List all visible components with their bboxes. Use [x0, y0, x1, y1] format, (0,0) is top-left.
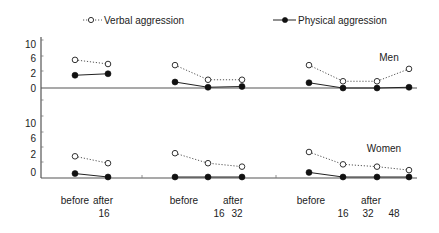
men-verbal-line-group-3	[309, 65, 409, 81]
x-label-week: 32	[231, 208, 243, 219]
legend: Verbal aggression Physical aggression	[83, 15, 387, 26]
women-physical-line-group-3	[309, 172, 409, 177]
men-physical-data-point	[172, 79, 178, 85]
women-verbal-data-point	[374, 164, 380, 170]
women-verbal-data-point	[105, 160, 111, 166]
men-y-tick-label: 10	[25, 39, 37, 50]
x-label-week: 16	[337, 208, 349, 219]
x-label-week: 16	[98, 208, 110, 219]
women-verbal-data-point	[406, 167, 412, 173]
women-physical-data-point	[205, 174, 211, 180]
chart-figure: Verbal aggression Physical aggression Me…	[0, 0, 439, 233]
legend-item-physical: Physical aggression	[273, 15, 387, 26]
men-physical-line-group-3	[309, 83, 409, 88]
x-label-phase: before	[297, 195, 326, 206]
legend-label-verbal: Verbal aggression	[104, 15, 184, 26]
men-physical-data-point	[105, 71, 111, 77]
women-verbal-line-group-1	[75, 156, 108, 163]
men-verbal-data-point	[172, 62, 178, 68]
x-label-phase: after	[361, 195, 382, 206]
women-y-tick-label: 10	[25, 118, 37, 129]
women-verbal-data-point	[172, 150, 178, 156]
men-verbal-data-point	[205, 77, 211, 83]
men-physical-line-group-1	[75, 74, 108, 76]
men-physical-data-point	[72, 72, 78, 78]
x-label-phase: before	[61, 195, 90, 206]
women-physical-data-point	[406, 174, 412, 180]
men-physical-data-point	[406, 84, 412, 90]
x-label-phase: before	[170, 195, 199, 206]
women-y-tick-label: 6	[30, 133, 36, 144]
data-series	[72, 57, 412, 180]
men-physical-data-point	[205, 84, 211, 90]
women-verbal-data-point	[205, 160, 211, 166]
x-label-week: 16	[213, 208, 225, 219]
x-axis-labels: beforeafterbeforeafterbeforeafter1616321…	[61, 195, 400, 219]
men-y-tick-label: 6	[30, 53, 36, 64]
x-label-week: 32	[362, 208, 374, 219]
women-verbal-data-point	[306, 149, 312, 155]
men-verbal-data-point	[374, 78, 380, 84]
x-label-phase: after	[223, 195, 244, 206]
women-verbal-line-group-3	[309, 152, 409, 170]
men-verbal-data-point	[406, 66, 412, 72]
x-label-week: 48	[388, 208, 400, 219]
women-physical-data-point	[340, 174, 346, 180]
aggression-line-chart: Verbal aggression Physical aggression Me…	[0, 0, 439, 233]
filled-circle-icon	[282, 17, 287, 22]
women-physical-data-point	[105, 174, 111, 180]
men-physical-data-point	[306, 80, 312, 86]
women-physical-data-point	[306, 169, 312, 175]
men-verbal-data-point	[306, 62, 312, 68]
women-verbal-data-point	[239, 164, 245, 170]
women-physical-data-point	[172, 174, 178, 180]
men-physical-data-point	[239, 84, 245, 90]
men-verbal-line-group-1	[75, 60, 108, 64]
panel-label-men: Men	[379, 52, 398, 63]
women-physical-data-point	[239, 174, 245, 180]
legend-label-physical: Physical aggression	[298, 15, 387, 26]
men-verbal-data-point	[105, 61, 111, 67]
open-circle-icon	[88, 17, 93, 22]
women-physical-data-point	[72, 171, 78, 177]
men-y-tick-label: 0	[30, 83, 36, 94]
panel-label-women: Women	[367, 143, 401, 154]
axes	[41, 37, 417, 178]
women-y-tick-label: 0	[30, 167, 36, 178]
women-verbal-data-point	[72, 154, 78, 160]
y-ticks: 0261002610	[25, 39, 276, 179]
x-label-phase: after	[93, 195, 114, 206]
men-y-tick-label: 2	[30, 68, 36, 79]
men-verbal-data-point	[239, 77, 245, 83]
men-verbal-data-point	[72, 57, 78, 63]
men-physical-data-point	[374, 85, 380, 91]
women-physical-line-group-1	[75, 174, 108, 177]
legend-item-verbal: Verbal aggression	[83, 15, 184, 26]
men-verbal-data-point	[340, 78, 346, 84]
women-y-tick-label: 2	[30, 149, 36, 160]
women-verbal-data-point	[340, 162, 346, 168]
women-physical-data-point	[374, 174, 380, 180]
men-physical-data-point	[340, 85, 346, 91]
